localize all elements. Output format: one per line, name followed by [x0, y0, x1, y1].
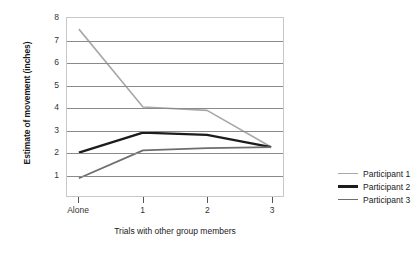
legend-item[interactable]: Participant 2	[338, 180, 410, 193]
legend-color-swatch	[338, 199, 358, 201]
x-tick-mark	[78, 197, 79, 203]
y-tick-label: 7	[54, 35, 59, 45]
data-series-line	[79, 147, 271, 178]
y-tick-label: 3	[54, 125, 59, 135]
legend-label: Participant 3	[363, 195, 410, 205]
data-series-layer	[67, 18, 283, 196]
x-axis-title: Trials with other group members	[66, 226, 284, 236]
gridline	[67, 63, 283, 64]
gridline	[67, 108, 283, 109]
x-tick-label: Alone	[67, 205, 89, 215]
gridline	[67, 176, 283, 177]
plot-area	[66, 17, 284, 197]
x-axis-tick-labels: Alone123	[66, 197, 284, 223]
legend-item[interactable]: Participant 1	[338, 167, 410, 180]
y-axis-tick-labels: 12345678	[0, 0, 66, 255]
data-series-line	[79, 29, 271, 147]
chart-legend: Participant 1Participant 2Participant 3	[338, 167, 410, 206]
legend-color-swatch	[338, 185, 358, 187]
x-tick-label: 1	[140, 205, 145, 215]
y-tick-label: 2	[54, 147, 59, 157]
x-tick-mark	[207, 197, 208, 203]
y-tick-label: 1	[54, 170, 59, 180]
gridline	[67, 153, 283, 154]
legend-color-swatch	[338, 173, 358, 175]
y-tick-label: 4	[54, 102, 59, 112]
gridline	[67, 131, 283, 132]
y-tick-label: 8	[54, 12, 59, 22]
y-tick-label: 5	[54, 80, 59, 90]
y-tick-label: 6	[54, 57, 59, 67]
legend-item[interactable]: Participant 3	[338, 193, 410, 206]
legend-label: Participant 2	[363, 182, 410, 192]
x-tick-mark	[272, 197, 273, 203]
gridline	[67, 41, 283, 42]
x-tick-mark	[143, 197, 144, 203]
x-tick-label: 2	[205, 205, 210, 215]
x-tick-label: 3	[270, 205, 275, 215]
gridline	[67, 86, 283, 87]
line-chart-figure: Estimate of movement (inches) 12345678 A…	[0, 0, 418, 255]
legend-label: Participant 1	[363, 169, 410, 179]
